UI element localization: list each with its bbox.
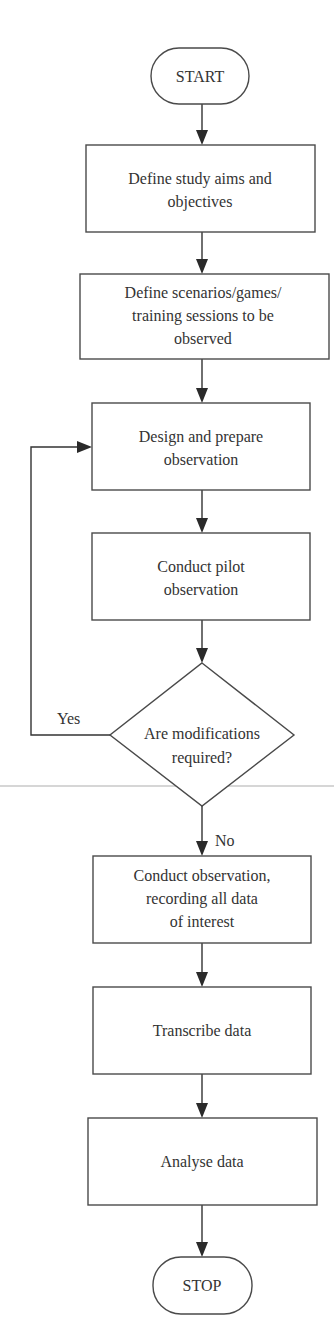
node-analyse: Analyse data [88,1118,317,1205]
arrowhead-down-icon [196,1242,208,1257]
node-define-scenarios: Define scenarios/games/ training session… [80,274,329,359]
flowchart: START Define study aims and objectives D… [0,0,334,1330]
arrowhead-down-icon [196,648,208,663]
arrowhead-down-icon [196,259,208,274]
arrowhead-down-icon [196,972,208,987]
node-pilot: Conduct pilot observation [92,533,310,620]
arrowhead-down-icon [196,1103,208,1118]
edge-label-no: No [215,832,235,849]
node-conduct-line-3: of interest [170,913,235,930]
edge-label-yes: Yes [57,710,80,727]
process-box [92,533,310,620]
node-stop-label: STOP [183,1277,222,1294]
node-pilot-line-1: Conduct pilot [157,558,245,576]
node-transcribe: Transcribe data [93,987,311,1074]
node-conduct-line-1: Conduct observation, [134,867,271,884]
arrowhead-down-icon [196,130,208,145]
node-stop: STOP [153,1257,252,1314]
node-define-scenarios-line-2: training sessions to be [132,307,274,325]
arrowhead-down-icon [196,841,208,856]
process-box [92,403,310,490]
node-transcribe-label: Transcribe data [153,1022,252,1039]
arrowhead-right-icon [77,441,92,453]
arrowhead-down-icon [196,518,208,533]
node-decision: Are modifications required? [110,663,294,806]
node-define-scenarios-line-1: Define scenarios/games/ [125,284,282,302]
node-start: START [151,48,249,104]
node-define-aims-line-1: Define study aims and [128,170,272,188]
node-decision-line-1: Are modifications [144,725,260,742]
node-analyse-label: Analyse data [160,1153,243,1171]
node-conduct-line-2: recording all data [146,890,258,908]
node-decision-line-2: required? [172,749,232,767]
node-define-aims: Define study aims and objectives [86,145,315,232]
node-define-aims-line-2: objectives [168,193,233,211]
node-design-prepare-line-2: observation [164,451,239,468]
node-start-label: START [176,68,225,85]
node-define-scenarios-line-3: observed [174,330,232,347]
node-conduct: Conduct observation, recording all data … [93,856,311,943]
node-design-prepare: Design and prepare observation [92,403,310,490]
node-pilot-line-2: observation [164,581,239,598]
arrowhead-down-icon [196,388,208,403]
node-design-prepare-line-1: Design and prepare [139,428,263,446]
process-box [86,145,315,232]
